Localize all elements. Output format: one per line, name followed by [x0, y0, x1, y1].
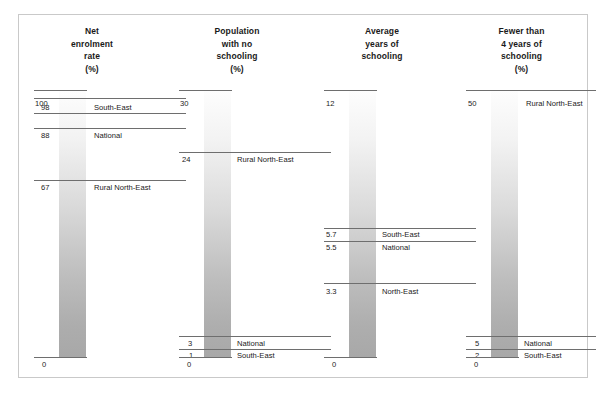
marker-category: South-East [524, 351, 562, 360]
marker-category: Rural North-East [237, 155, 294, 164]
marker-category: South-East [237, 351, 275, 360]
axis-cap-rule [324, 90, 377, 91]
marker-rule-5 [466, 336, 596, 337]
marker-category: Rural North-East [526, 99, 583, 108]
panel-title-line: 4 years of [501, 39, 542, 49]
panel-title-line: Average [365, 26, 399, 36]
chart-figure: Net enrolment rate (%) 100 98 South-East… [0, 0, 607, 393]
marker-category: National [382, 243, 410, 252]
panel-title-line: schooling [361, 51, 402, 61]
marker-rule-0 [179, 357, 232, 358]
panel-title-line: years of [365, 39, 398, 49]
marker-category: National [524, 339, 552, 348]
marker-value: 88 [41, 131, 49, 140]
marker-value: 24 [182, 155, 190, 164]
marker-value: 3 [188, 339, 192, 348]
panel-title-line: enrolment [71, 39, 113, 49]
panel-title-line: rate [84, 51, 100, 61]
panel-title: Average years of schooling [317, 25, 447, 63]
marker-value: 50 [468, 99, 476, 108]
marker-category: National [94, 131, 122, 140]
panel-population-no-schooling: Population with no schooling (%) 30 24 R… [164, 15, 309, 379]
marker-value: 5.5 [326, 243, 337, 252]
panel-title-line: with no [222, 39, 252, 49]
axis-cap-rule [179, 90, 232, 91]
marker-rule-2 [466, 349, 596, 350]
chart-frame: Net enrolment rate (%) 100 98 South-East… [18, 14, 588, 378]
marker-value: 12 [326, 99, 334, 108]
marker-value: 0 [42, 360, 46, 369]
marker-value: 98 [41, 103, 49, 112]
panel-title: Population with no schooling (%) [172, 25, 302, 75]
panel-title: Fewer than 4 years of schooling (%) [459, 25, 584, 75]
marker-value: 5.7 [326, 230, 337, 239]
panel-title-line: Net [85, 26, 99, 36]
marker-rule-0 [324, 357, 377, 358]
panel-title-line: (%) [230, 64, 244, 74]
gradient-bar [204, 91, 231, 357]
marker-value: 0 [187, 360, 191, 369]
marker-category: National [237, 339, 265, 348]
marker-value: 30 [180, 99, 188, 108]
marker-rule-0 [466, 357, 519, 358]
marker-value: 5 [475, 339, 479, 348]
panel-title-line: Fewer than [499, 26, 545, 36]
marker-category: Rural North-East [94, 183, 151, 192]
panel-net-enrolment-rate: Net enrolment rate (%) 100 98 South-East… [19, 15, 164, 379]
marker-category: South-East [382, 230, 420, 239]
marker-value: 0 [332, 360, 336, 369]
marker-value: 67 [41, 183, 49, 192]
panel-title-line: schooling [216, 51, 257, 61]
gradient-bar [349, 91, 376, 357]
gradient-bar [491, 91, 518, 357]
marker-rule-0 [34, 357, 87, 358]
panel-title: Net enrolment rate (%) [27, 25, 157, 75]
marker-value: 2 [475, 351, 479, 360]
panel-title-line: schooling [501, 51, 542, 61]
axis-cap-rule [466, 90, 596, 91]
panel-title-line: (%) [515, 64, 529, 74]
marker-category: North-East [382, 287, 418, 296]
marker-category: South-East [94, 103, 132, 112]
panel-fewer-than-4-years: Fewer than 4 years of schooling (%) 50 R… [454, 15, 589, 379]
axis-cap-rule [34, 90, 87, 91]
gradient-bar [59, 91, 86, 357]
marker-value: 0 [474, 360, 478, 369]
panel-average-years-schooling: Average years of schooling 12 5.7 South-… [309, 15, 454, 379]
marker-value: 3.3 [326, 287, 337, 296]
marker-value: 1 [189, 351, 193, 360]
panel-title-line: (%) [85, 64, 99, 74]
panel-title-line: Population [215, 26, 260, 36]
